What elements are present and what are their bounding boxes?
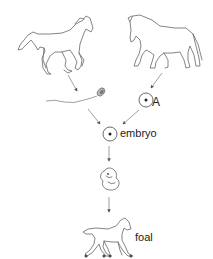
arrow-stallion-to-sperm: [68, 75, 77, 91]
foal-label: foal: [135, 232, 153, 243]
stallion-horse-icon: [18, 16, 93, 74]
arrow-mare-to-egg: [151, 73, 162, 88]
fetus-icon: [100, 168, 119, 190]
egg-label: A: [152, 96, 160, 108]
arrow-egg-to-embryo: [123, 110, 139, 124]
arrow-sperm-to-embryo: [88, 109, 100, 124]
diagram-graphics: [0, 0, 213, 259]
foal-icon: [83, 218, 132, 257]
embryo-label: embryo: [120, 128, 157, 139]
mare-horse-icon: [128, 15, 202, 68]
zygote-icon: [103, 127, 117, 141]
reproduction-diagram: A embryo foal: [0, 0, 213, 259]
egg-cell-icon: [139, 93, 153, 107]
